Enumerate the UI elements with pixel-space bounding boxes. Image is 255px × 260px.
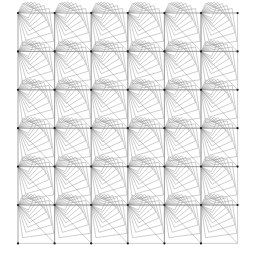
vertex-node xyxy=(54,166,56,168)
vertex-node xyxy=(237,89,239,91)
vertex-node xyxy=(127,166,129,168)
vertex-node xyxy=(90,127,92,129)
vertex-node xyxy=(127,204,129,206)
vertex-node xyxy=(54,89,56,91)
vertex-node xyxy=(17,242,19,244)
vertex-node xyxy=(200,242,202,244)
vertex-node xyxy=(54,12,56,14)
vertex-node xyxy=(17,50,19,52)
vertex-node xyxy=(200,50,202,52)
vertex-node xyxy=(127,127,129,129)
vertex-node xyxy=(163,204,165,206)
vertex-node xyxy=(54,127,56,129)
vertex-node xyxy=(237,12,239,14)
vertex-node xyxy=(127,242,129,244)
vertex-node xyxy=(90,166,92,168)
vertex-node xyxy=(17,12,19,14)
vertex-node xyxy=(90,89,92,91)
vertex-node xyxy=(237,204,239,206)
vertex-node xyxy=(200,204,202,206)
vertex-node xyxy=(237,166,239,168)
square-spiral-pattern xyxy=(0,0,255,260)
vertex-node xyxy=(237,127,239,129)
vertex-node xyxy=(90,12,92,14)
vertex-node xyxy=(200,127,202,129)
vertex-node xyxy=(163,242,165,244)
artwork-canvas xyxy=(0,0,255,260)
vertex-node xyxy=(200,166,202,168)
vertex-node xyxy=(163,127,165,129)
vertex-node xyxy=(17,127,19,129)
vertex-node xyxy=(127,12,129,14)
vertex-node xyxy=(54,204,56,206)
vertex-node xyxy=(163,89,165,91)
vertex-node xyxy=(17,89,19,91)
vertex-node xyxy=(237,50,239,52)
background-rect xyxy=(0,0,255,260)
vertex-node xyxy=(200,12,202,14)
vertex-node xyxy=(90,242,92,244)
vertex-node xyxy=(127,89,129,91)
vertex-node xyxy=(54,242,56,244)
vertex-node xyxy=(90,50,92,52)
vertex-node xyxy=(163,166,165,168)
vertex-node xyxy=(163,50,165,52)
vertex-node xyxy=(17,204,19,206)
vertex-node xyxy=(163,12,165,14)
vertex-node xyxy=(127,50,129,52)
vertex-node xyxy=(200,89,202,91)
vertex-node xyxy=(54,50,56,52)
vertex-node xyxy=(90,204,92,206)
vertex-node xyxy=(17,166,19,168)
